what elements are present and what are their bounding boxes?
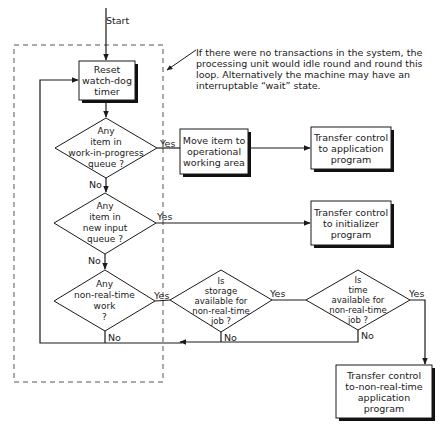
no-label-input: No xyxy=(88,256,101,266)
wip-text: Any item in work-in-progress queue ? xyxy=(55,121,157,175)
move-item-text: Move item to operational working area xyxy=(180,129,248,174)
no-label-time: No xyxy=(361,331,374,341)
no-label-nrt: No xyxy=(108,333,121,343)
nrt-text: Any non-real-time work ? xyxy=(54,274,155,328)
annotation-pointer xyxy=(167,50,196,70)
transfer-app-text: Transfer control to application program xyxy=(311,127,391,169)
transfer-init-text: Transfer control to initializer program xyxy=(311,201,391,245)
no-label-wip: No xyxy=(89,180,102,190)
no-label-storage: No xyxy=(224,333,237,343)
time-text: Is time available for non-real-time job … xyxy=(306,272,410,328)
transfer-nrt-text: Transfer control to-non-real-time applic… xyxy=(336,365,432,418)
yes-label-input: Yes xyxy=(157,212,172,222)
input-text: Any item in new input queue ? xyxy=(54,196,156,250)
yes-label-storage: Yes xyxy=(270,289,285,299)
annotation-note: If there were no transactions in the sys… xyxy=(196,47,441,91)
yes-label-wip: Yes xyxy=(160,139,175,149)
yes-label-nrt: Yes xyxy=(154,291,169,301)
storage-text: Is storage available for non-real-time j… xyxy=(170,272,272,330)
reset-text: Reset watch-dog timer xyxy=(79,61,135,100)
start-label: Start xyxy=(106,15,129,26)
yes-label-time: Yes xyxy=(409,289,424,299)
